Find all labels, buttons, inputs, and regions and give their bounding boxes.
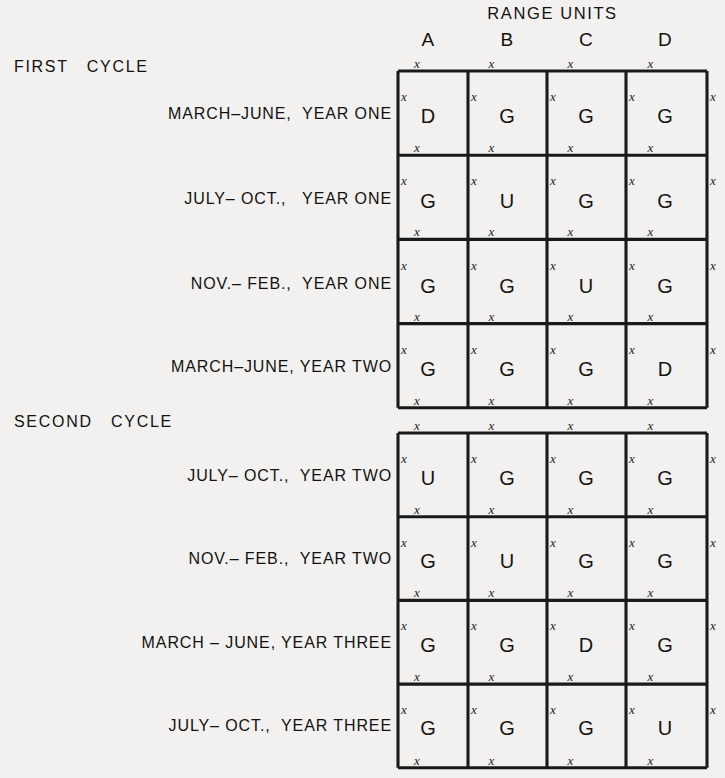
svg-text:x: x: [709, 535, 716, 550]
svg-text:x: x: [413, 585, 420, 600]
cell-s0-r0-c3: G: [635, 105, 695, 128]
cycle-header-second: SECOND CYCLE: [14, 413, 173, 431]
row-label-s0-r0: MARCH–JUNE, YEAR ONE: [168, 105, 392, 123]
svg-text:x: x: [470, 173, 477, 188]
svg-text:x: x: [470, 702, 477, 717]
svg-text:x: x: [488, 418, 495, 433]
cell-s1-r1-c3: G: [635, 550, 695, 573]
row-label-s0-r2: NOV.– FEB., YEAR ONE: [191, 275, 392, 293]
svg-text:x: x: [709, 89, 716, 104]
svg-text:x: x: [549, 342, 556, 357]
svg-text:x: x: [488, 224, 495, 239]
cell-s1-r2-c2: D: [556, 634, 616, 657]
svg-text:x: x: [628, 342, 635, 357]
cell-s1-r0-c0: U: [398, 467, 458, 490]
svg-text:x: x: [470, 618, 477, 633]
row-label-s1-r2: MARCH – JUNE, YEAR THREE: [142, 634, 392, 652]
svg-text:x: x: [549, 451, 556, 466]
svg-text:x: x: [549, 535, 556, 550]
svg-text:x: x: [567, 669, 574, 684]
svg-text:x: x: [400, 258, 407, 273]
cell-s0-r2-c0: G: [398, 275, 458, 298]
svg-text:x: x: [709, 702, 716, 717]
cell-s0-r3-c1: G: [477, 358, 537, 381]
svg-text:x: x: [413, 56, 420, 71]
svg-text:x: x: [488, 56, 495, 71]
column-header-c: C: [556, 29, 616, 51]
svg-text:x: x: [413, 669, 420, 684]
svg-text:x: x: [709, 342, 716, 357]
svg-text:x: x: [413, 502, 420, 517]
svg-text:x: x: [470, 451, 477, 466]
cell-s0-r0-c2: G: [556, 105, 616, 128]
svg-text:x: x: [488, 393, 495, 408]
svg-text:x: x: [488, 585, 495, 600]
svg-text:x: x: [413, 418, 420, 433]
svg-text:x: x: [567, 753, 574, 768]
svg-text:x: x: [628, 702, 635, 717]
cell-s0-r1-c3: G: [635, 190, 695, 213]
svg-text:x: x: [567, 393, 574, 408]
svg-text:x: x: [413, 753, 420, 768]
svg-text:x: x: [628, 618, 635, 633]
row-label-s1-r3: JULY– OCT., YEAR THREE: [169, 717, 392, 735]
svg-text:x: x: [567, 140, 574, 155]
cell-s0-r1-c0: G: [398, 190, 458, 213]
svg-text:x: x: [647, 140, 654, 155]
cell-s1-r2-c1: G: [477, 634, 537, 657]
row-label-s1-r0: JULY– OCT., YEAR TWO: [187, 467, 392, 485]
svg-text:x: x: [549, 702, 556, 717]
cell-s1-r1-c1: U: [477, 550, 537, 573]
svg-text:x: x: [647, 585, 654, 600]
range-units-rotation-figure: RANGE UNITS A B C D FIRST CYCLE SECOND C…: [0, 0, 725, 778]
cell-s0-r2-c3: G: [635, 275, 695, 298]
cell-s1-r1-c0: G: [398, 550, 458, 573]
svg-text:x: x: [549, 618, 556, 633]
svg-text:x: x: [567, 56, 574, 71]
cell-s0-r1-c1: U: [477, 190, 537, 213]
cell-s1-r2-c0: G: [398, 634, 458, 657]
svg-text:x: x: [413, 309, 420, 324]
svg-text:x: x: [488, 309, 495, 324]
svg-text:x: x: [413, 140, 420, 155]
svg-text:x: x: [488, 669, 495, 684]
svg-text:x: x: [628, 173, 635, 188]
cell-s1-r2-c3: G: [635, 634, 695, 657]
row-label-s0-r3: MARCH–JUNE, YEAR TWO: [171, 358, 392, 376]
svg-text:x: x: [567, 309, 574, 324]
cell-s1-r3-c2: G: [556, 717, 616, 740]
svg-text:x: x: [628, 535, 635, 550]
svg-text:x: x: [549, 173, 556, 188]
cell-s1-r0-c2: G: [556, 467, 616, 490]
svg-text:x: x: [549, 89, 556, 104]
svg-text:x: x: [709, 618, 716, 633]
svg-text:x: x: [647, 393, 654, 408]
column-header-b: B: [477, 29, 537, 51]
svg-text:x: x: [647, 669, 654, 684]
svg-text:x: x: [400, 535, 407, 550]
svg-text:x: x: [647, 502, 654, 517]
svg-text:x: x: [567, 502, 574, 517]
svg-text:x: x: [470, 535, 477, 550]
svg-text:x: x: [400, 89, 407, 104]
cycle-header-first: FIRST CYCLE: [14, 58, 149, 76]
column-header-a: A: [398, 29, 458, 51]
chart-title: RANGE UNITS: [398, 4, 707, 23]
svg-text:x: x: [628, 258, 635, 273]
svg-text:x: x: [488, 140, 495, 155]
cell-s0-r0-c1: G: [477, 105, 537, 128]
svg-text:x: x: [709, 451, 716, 466]
svg-text:x: x: [709, 173, 716, 188]
cell-s0-r3-c2: G: [556, 358, 616, 381]
cell-s1-r1-c2: G: [556, 550, 616, 573]
cell-s0-r0-c0: D: [398, 105, 458, 128]
svg-text:x: x: [567, 224, 574, 239]
svg-text:x: x: [488, 753, 495, 768]
svg-text:x: x: [400, 173, 407, 188]
svg-text:x: x: [470, 89, 477, 104]
cell-s1-r3-c0: G: [398, 717, 458, 740]
cell-s1-r0-c1: G: [477, 467, 537, 490]
svg-text:x: x: [647, 418, 654, 433]
svg-text:x: x: [567, 585, 574, 600]
svg-text:x: x: [647, 224, 654, 239]
